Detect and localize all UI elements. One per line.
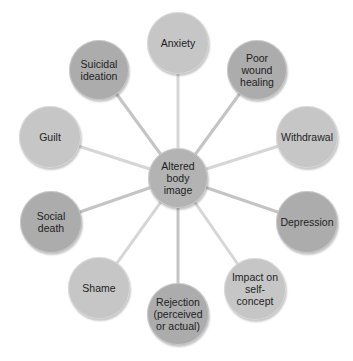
node-label: Poor wound healing [231, 52, 283, 88]
node-label: Depression [280, 216, 333, 228]
center-node-label: Altered body image [152, 160, 204, 196]
node-shame: Shame [68, 257, 130, 319]
node-depression: Depression [276, 191, 338, 253]
node-label: Suicidal ideation [81, 58, 118, 82]
node-anxiety: Anxiety [147, 12, 209, 74]
node-guilt: Guilt [19, 106, 81, 168]
node-withdrawal: Withdrawal [276, 106, 338, 168]
node-social-death: Social death [20, 191, 82, 253]
node-suicidal-ideation: Suicidal ideation [69, 40, 129, 100]
node-label: Anxiety [161, 37, 195, 49]
node-impact-on-self-concept: Impact on self-concept [224, 258, 286, 320]
spider-diagram: Altered body image Anxiety Poor wound he… [0, 0, 353, 361]
node-label: Impact on self-concept [228, 271, 282, 307]
node-label: Withdrawal [281, 131, 333, 143]
node-label: Rejection (perceived or actual) [153, 296, 202, 332]
node-label: Guilt [39, 131, 61, 143]
center-node-altered-body-image: Altered body image [148, 148, 208, 208]
node-rejection: Rejection (perceived or actual) [147, 283, 209, 345]
node-poor-wound-healing: Poor wound healing [227, 40, 287, 100]
node-label: Social death [24, 210, 78, 234]
node-label: Shame [82, 282, 115, 294]
